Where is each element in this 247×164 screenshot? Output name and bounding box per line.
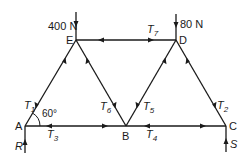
member-label-t2: T2: [217, 99, 229, 114]
node-label-a: A: [15, 120, 23, 132]
member-arrows: [35, 38, 217, 129]
reaction-arrow-c-icon: [224, 138, 229, 144]
load-label-d: 80 N: [180, 18, 203, 30]
reaction-arrow-a-icon: [23, 139, 28, 145]
angle-label: 60°: [42, 108, 57, 119]
t4-arrow-c-icon: [200, 124, 206, 129]
member-label-t6: T6: [100, 100, 112, 115]
angle-arc-a: [33, 113, 40, 126]
member-label-t4: T4: [146, 128, 158, 143]
truss-diagram: E D A B C 400 N 80 N R S 60° T1 T2 T3 T4…: [0, 0, 247, 164]
t7-arrow-d-icon: [148, 38, 154, 43]
node-label-d: D: [179, 34, 187, 46]
member-label-t1: T1: [24, 99, 35, 114]
member-label-t5: T5: [143, 100, 155, 115]
node-label-e: E: [66, 34, 73, 46]
reaction-label-s: S: [230, 138, 238, 150]
t7-arrow-e-icon: [98, 38, 104, 43]
member-t2-dc: [176, 40, 226, 126]
node-label-b: B: [122, 130, 129, 142]
load-label-e: 400 N: [48, 20, 77, 32]
reaction-label-r: R: [15, 140, 23, 152]
load-arrow-d-icon: [174, 22, 179, 28]
t3-arrow-b-icon: [102, 124, 108, 129]
member-t6-eb: [76, 40, 126, 126]
member-label-t7: T7: [147, 23, 159, 38]
node-label-c: C: [229, 120, 237, 132]
member-label-t3: T3: [47, 128, 59, 143]
